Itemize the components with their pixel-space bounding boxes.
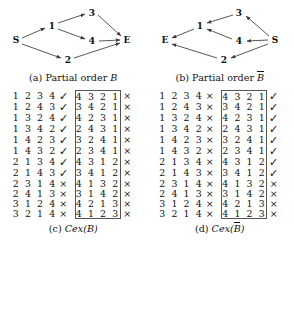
permutation-left: 1 3 4 2 <box>159 124 203 135</box>
permutation-right-boxed: 2 4 3 1 <box>222 124 267 135</box>
table-row: 2 3 1 4×4 1 3 2× <box>13 179 134 189</box>
graph-edges-b <box>172 15 269 58</box>
table-row: 3 1 2 4×4 2 1 3× <box>13 199 134 209</box>
node-label-S: S <box>272 35 279 45</box>
table-row: 2 1 3 4×4 3 1 2✓ <box>159 157 280 168</box>
permutation-left: 3 1 2 4 <box>159 199 203 209</box>
table-row: 3 1 2 4×4 2 1 3× <box>159 199 280 209</box>
caption-d-close: ) <box>241 223 245 234</box>
table-row: 2 4 1 3×3 1 4 2× <box>13 189 134 199</box>
node-label-3: 3 <box>89 8 95 18</box>
node-label-S: S <box>13 35 20 45</box>
node-label-E: E <box>161 35 168 45</box>
permutation-right-boxed: 3 2 4 1 <box>75 135 120 146</box>
permutation-right-boxed: 2 4 3 1 <box>75 124 120 135</box>
permutation-right-boxed: 4 2 3 1 <box>75 113 120 124</box>
permutation-left: 1 2 3 4 <box>159 91 203 102</box>
table-row: 1 2 3 4✓4 3 2 1× <box>13 91 134 102</box>
caption-c-symbol: B <box>87 223 94 234</box>
cross-icon: × <box>206 167 214 178</box>
node-label-4: 4 <box>89 36 95 46</box>
cross-icon: × <box>123 208 131 219</box>
partial-order-diagrams-row: S 1 2 3 4 E <box>0 0 293 72</box>
caption-a-prefix: (a) <box>29 72 42 83</box>
caption-b-symbol: B <box>257 72 264 84</box>
cross-icon: × <box>123 145 131 156</box>
permutation-right-boxed: 3 2 4 1 <box>222 135 267 146</box>
cross-icon: × <box>123 90 131 101</box>
cross-icon: × <box>206 123 214 134</box>
mark-left: × <box>203 209 216 219</box>
cross-icon: × <box>206 101 214 112</box>
table-row: 1 4 3 2✓2 3 4 1× <box>13 146 134 157</box>
mark-left: × <box>203 146 216 157</box>
cex-tables-row: 1 2 3 4✓4 3 2 1×1 2 4 3✓3 4 2 1×1 3 2 4✓… <box>0 90 293 219</box>
caption-c-fn: Cex( <box>65 223 87 234</box>
table-row: 3 2 1 4×4 1 2 3× <box>159 209 280 219</box>
permutation-right-boxed: 2 3 4 1 <box>222 146 267 157</box>
table-row: 2 3 1 4×4 1 3 2× <box>159 179 280 189</box>
table-row: 1 3 4 2×2 4 3 1✓ <box>159 124 280 135</box>
node-label-3: 3 <box>236 8 242 18</box>
permutation-left: 1 2 4 3 <box>159 102 203 113</box>
permutation-left: 2 3 1 4 <box>13 179 57 189</box>
cross-icon: × <box>206 208 214 219</box>
mark-right: × <box>120 209 134 219</box>
permutation-left: 3 2 1 4 <box>13 209 57 219</box>
caption-b: (b) Partial order B <box>147 72 294 84</box>
mark-right: × <box>120 146 134 157</box>
mark-left: × <box>203 102 216 113</box>
mark-right: × <box>120 135 134 146</box>
permutation-right-boxed: 3 1 4 2 <box>222 189 267 199</box>
mark-right: × <box>120 102 134 113</box>
cross-icon: × <box>123 156 131 167</box>
caption-d-fn: Cex( <box>212 223 234 234</box>
partial-order-graph-a: S 1 2 3 4 E <box>0 0 146 72</box>
table-row: 1 4 3 2×2 3 4 1✓ <box>159 146 280 157</box>
graph-edges-a <box>22 14 121 58</box>
table-row: 1 4 2 3✓3 2 4 1× <box>13 135 134 146</box>
table-panel-c: 1 2 3 4✓4 3 2 1×1 2 4 3✓3 4 2 1×1 3 2 4✓… <box>0 90 147 219</box>
permutation-left: 1 4 2 3 <box>159 135 203 146</box>
table-row: 1 2 4 3×3 4 2 1✓ <box>159 102 280 113</box>
permutation-left: 2 1 3 4 <box>159 157 203 168</box>
table-captions-row: (c) Cex(B) (d) Cex(B) <box>0 223 293 235</box>
caption-d-symbol: B <box>234 223 241 235</box>
permutation-left: 1 2 4 3 <box>13 102 57 113</box>
permutation-right-boxed: 4 2 1 3 <box>222 199 267 209</box>
mark-right: × <box>120 157 134 168</box>
permutation-right-boxed: 3 4 1 2 <box>222 168 267 179</box>
mark-right: × <box>120 124 134 135</box>
permutation-right-boxed: 4 2 1 3 <box>75 199 120 209</box>
cross-icon: × <box>123 134 131 145</box>
permutation-right-boxed: 4 1 3 2 <box>75 179 120 189</box>
permutation-right-boxed: 3 4 1 2 <box>75 168 120 179</box>
cross-icon: × <box>206 134 214 145</box>
caption-a: (a) Partial order B <box>0 72 147 84</box>
cex-table-d-body: 1 2 3 4×4 3 2 1✓1 2 4 3×3 4 2 1✓1 3 2 4×… <box>159 91 280 219</box>
node-label-2: 2 <box>221 55 227 65</box>
cex-table-c-body: 1 2 3 4✓4 3 2 1×1 2 4 3✓3 4 2 1×1 3 2 4✓… <box>13 91 134 219</box>
mark-right: × <box>120 113 134 124</box>
node-label-1: 1 <box>49 21 55 31</box>
permutation-right-boxed: 3 4 2 1 <box>222 102 267 113</box>
diagram-panel-a: S 1 2 3 4 E <box>0 0 147 72</box>
caption-b-text: Partial order <box>192 72 254 83</box>
permutation-right-boxed: 2 3 4 1 <box>75 146 120 157</box>
permutation-left: 1 3 4 2 <box>13 124 57 135</box>
permutation-right-boxed: 4 3 2 1 <box>222 91 267 102</box>
caption-a-symbol: B <box>110 72 117 83</box>
permutation-left: 1 3 2 4 <box>13 113 57 124</box>
cross-icon: × <box>123 123 131 134</box>
node-label-1: 1 <box>197 21 203 31</box>
cross-icon: × <box>206 156 214 167</box>
mark-left: × <box>203 124 216 135</box>
node-label-E: E <box>124 35 131 45</box>
permutation-right-boxed: 4 2 3 1 <box>222 113 267 124</box>
caption-b-prefix: (b) <box>175 72 189 83</box>
cross-icon: × <box>206 112 214 123</box>
caption-d: (d) Cex(B) <box>147 223 294 235</box>
permutation-right-boxed: 4 1 3 2 <box>222 179 267 189</box>
cross-icon: × <box>270 208 278 219</box>
graph-nodes-b: E 1 2 3 4 S <box>161 8 278 65</box>
